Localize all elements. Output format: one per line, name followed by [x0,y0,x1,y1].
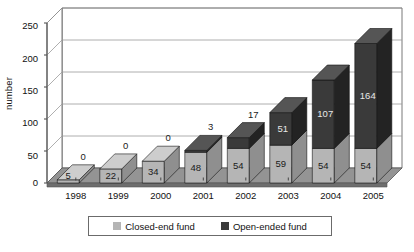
data-label-open-ended: 0 [153,133,183,143]
data-label-open-ended: 17 [238,110,268,120]
data-label-closed-end: 54 [308,161,338,171]
x-tick-1999: 1999 [101,190,135,201]
x-tick-1998: 1998 [59,190,93,201]
x-tick-2005: 2005 [356,190,390,201]
x-tick-2003: 2003 [271,190,305,201]
data-label-closed-end: 5 [53,171,83,181]
polygon [47,8,62,183]
polygon [47,183,387,187]
legend-item-closed-end: Closed-end fund [113,221,195,232]
data-label-open-ended: 107 [310,109,340,119]
data-label-open-ended: 3 [196,122,226,132]
data-label-open-ended: 0 [111,141,141,151]
bar-chart: number 250 200 150 100 50 0 199819992000… [0,0,414,252]
legend-swatch-closed-end [113,222,121,230]
x-tick-2000: 2000 [144,190,178,201]
data-label-closed-end: 34 [138,167,168,177]
chart-legend: Closed-end fund Open-ended fund [88,216,332,236]
data-label-closed-end: 22 [96,171,126,181]
data-label-open-ended: 164 [353,91,383,101]
data-label-open-ended: 0 [68,152,98,162]
polygon [377,29,392,149]
data-label-closed-end: 54 [351,161,381,171]
x-tick-2001: 2001 [186,190,220,201]
data-label-open-ended: 51 [268,124,298,134]
legend-swatch-open-ended [221,222,229,230]
legend-item-open-ended: Open-ended fund [221,221,307,232]
data-label-closed-end: 54 [223,161,253,171]
legend-label-closed-end: Closed-end fund [125,221,195,232]
x-tick-2002: 2002 [229,190,263,201]
legend-label-open-ended: Open-ended fund [233,221,307,232]
data-label-closed-end: 59 [266,159,296,169]
x-tick-2004: 2004 [314,190,348,201]
polygon [227,138,249,149]
data-label-closed-end: 48 [181,163,211,173]
